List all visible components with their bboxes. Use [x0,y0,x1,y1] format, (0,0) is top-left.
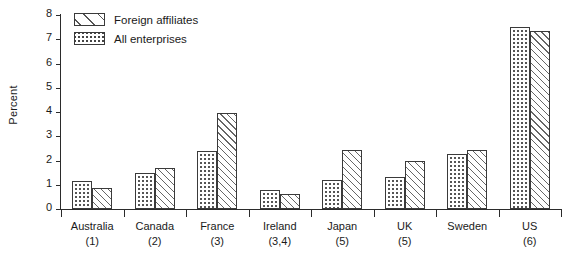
bar-canada-hatched [155,168,175,209]
bar-ireland-dotted [260,190,280,209]
x-axis-category-note: (1) [61,234,124,249]
x-axis-category-note: (6) [499,234,562,249]
legend-item-foreign-affiliates: Foreign affiliates [74,11,198,28]
bar-sweden-hatched [467,150,487,209]
x-axis-category-note: (5) [311,234,374,249]
x-axis-category-name: France [186,219,249,234]
x-axis-group-france: France(3) [186,219,249,249]
x-axis-separator-tick [561,210,562,217]
x-axis-category-name: Japan [311,219,374,234]
legend-label-foreign-affiliates: Foreign affiliates [114,14,198,26]
bar-ireland-hatched [280,194,300,209]
y-axis-tick-label: 7 [32,31,52,43]
x-axis-group-us: US(6) [499,219,562,249]
x-axis-separator-tick [61,210,62,217]
legend-swatch-dotted-icon [74,32,105,45]
x-axis-category-name: UK [374,219,437,234]
y-axis-title-text: Percent [7,85,19,124]
y-axis-tick-label: 2 [32,153,52,165]
legend-swatch-hatched-icon [74,13,105,26]
x-axis-group-uk: UK(5) [374,219,437,249]
bar-france-dotted [197,151,217,209]
legend-item-all-enterprises: All enterprises [74,30,198,47]
y-axis-tick-label: 6 [32,56,52,68]
x-axis-category-name: Ireland [249,219,312,234]
x-axis-category-name: US [499,219,562,234]
x-axis-category-name: Australia [61,219,124,234]
x-axis-separator-tick [499,210,500,217]
y-axis-tick-label: 4 [32,104,52,116]
bar-uk-dotted [385,177,405,209]
x-axis-separator-tick [311,210,312,217]
chart-legend: Foreign affiliates All enterprises [74,11,198,49]
x-axis-separator-tick [186,210,187,217]
x-axis-category-note: (3,4) [249,234,312,249]
x-axis-separator-tick [374,210,375,217]
y-axis-tick-label: 1 [32,177,52,189]
x-axis-group-australia: Australia(1) [61,219,124,249]
x-axis-category-note: (3) [186,234,249,249]
x-axis-category-note: (2) [124,234,187,249]
bar-uk-hatched [405,161,425,210]
bar-us-dotted [510,27,530,209]
x-axis-category-name: Sweden [436,219,499,234]
bar-australia-hatched [92,188,112,209]
y-axis-title: Percent [2,0,24,210]
x-axis-separator-tick [436,210,437,217]
bar-us-hatched [530,31,550,209]
bar-chart: Percent 876543210 Australia(1)Canada(2)F… [0,0,568,262]
y-axis-tick-label: 5 [32,80,52,92]
x-axis-separator-tick [124,210,125,217]
x-axis-separator-tick [249,210,250,217]
x-axis-group-sweden: Sweden [436,219,499,234]
bar-france-hatched [217,113,237,209]
bar-canada-dotted [135,173,155,209]
x-axis-group-japan: Japan(5) [311,219,374,249]
y-axis-tick-label: 3 [32,128,52,140]
bar-japan-dotted [322,180,342,209]
bar-australia-dotted [72,181,92,209]
y-axis-tick-label: 0 [32,201,52,213]
x-axis-group-ireland: Ireland(3,4) [249,219,312,249]
legend-label-all-enterprises: All enterprises [114,33,187,45]
bar-sweden-dotted [447,154,467,209]
y-axis-tick-label: 8 [32,7,52,19]
x-axis-group-canada: Canada(2) [124,219,187,249]
x-axis-category-name: Canada [124,219,187,234]
x-axis-category-note: (5) [374,234,437,249]
bar-japan-hatched [342,150,362,209]
